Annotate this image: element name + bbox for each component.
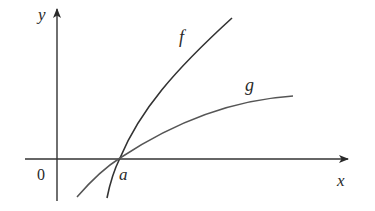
point-a-label: a [119, 166, 128, 183]
graph-canvas [0, 0, 375, 211]
x-axis-label: x [337, 172, 345, 189]
curve-g-label: g [245, 76, 254, 94]
curve-g [77, 96, 293, 197]
y-axis-label: y [38, 6, 46, 23]
curve-f-label: f [179, 28, 184, 46]
graph-diagram: y 0 a x f g [0, 0, 375, 211]
origin-label: 0 [37, 167, 45, 183]
